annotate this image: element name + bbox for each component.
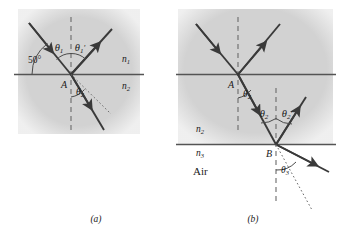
panel-b-point-a-label: A <box>227 79 235 90</box>
panel-b: A θ2 θ2 θ2′ B θ3 n2 n3 Air (b) <box>176 9 336 225</box>
panel-b-caption: (b) <box>247 214 258 225</box>
panel-a: θ1 θ1′ 50° A θ2 n1 n2 (a) <box>14 9 144 225</box>
panel-a-point-a-label: A <box>60 79 68 90</box>
panel-a-caption: (a) <box>90 214 101 225</box>
panel-b-transmitted-ray-arrow <box>276 145 316 166</box>
panel-a-grazing-angle-label: 50° <box>28 55 42 65</box>
panel-b-lower-medium-label: n3 <box>196 148 205 159</box>
diagram-canvas: θ1 θ1′ 50° A θ2 n1 n2 (a) <box>0 0 344 241</box>
panel-b-point-b-label: B <box>266 148 272 159</box>
panel-b-air-label: Air <box>193 165 208 177</box>
panel-a-medium-shading <box>18 9 140 134</box>
optics-ray-diagram-figure: θ1 θ1′ 50° A θ2 n1 n2 (a) <box>0 0 344 241</box>
